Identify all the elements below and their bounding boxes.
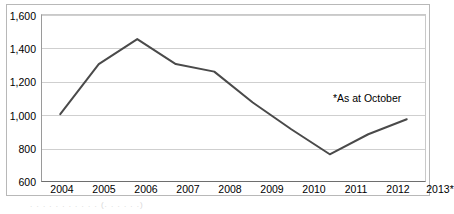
x-tick-label: 2008	[218, 183, 241, 195]
x-tick-label: 2006	[134, 183, 157, 195]
x-tick-label: 2013*	[426, 183, 453, 195]
footnote-annotation: *As at October	[333, 92, 401, 104]
x-tick-label: 2011	[345, 183, 368, 195]
x-tick-label: 2005	[92, 183, 115, 195]
x-tick-label: 2007	[176, 183, 199, 195]
x-tick-label: 2010	[302, 183, 325, 195]
caption-remnant: . . . . . . . . . . . (. . . . . .)	[30, 200, 144, 209]
x-tick-label: 2009	[260, 183, 283, 195]
x-tick-label: 2012	[386, 183, 409, 195]
x-tick-label: 2004	[50, 183, 73, 195]
